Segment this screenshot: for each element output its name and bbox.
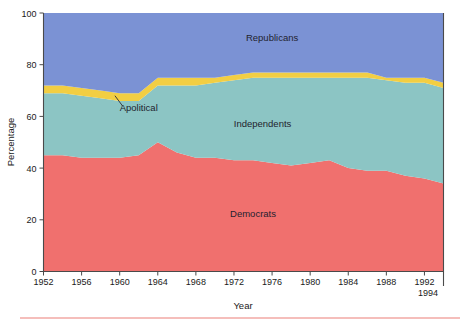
y-tick-label: 80	[26, 60, 36, 70]
series-label-independents: Independents	[234, 118, 292, 129]
figure-container: 020406080100 195219561960196419681972197…	[0, 0, 469, 323]
x-tick-label: 1984	[338, 277, 358, 287]
stacked-areas-group	[44, 13, 444, 272]
x-tick-label: 1956	[72, 277, 92, 287]
y-tick-label: 20	[26, 215, 36, 225]
x-tick-label: 1968	[186, 277, 206, 287]
area-chart: 020406080100 195219561960196419681972197…	[0, 0, 469, 323]
x-axis-title: Year	[233, 300, 252, 311]
series-label-republicans: Republicans	[246, 32, 299, 43]
x-axis-end-label: 1994	[418, 288, 438, 298]
x-tick-group: 1952195619601964196819721976198019841988…	[33, 272, 434, 288]
y-tick-group: 020406080100	[21, 9, 43, 278]
x-tick-label: 1988	[376, 277, 396, 287]
x-tick-label: 1992	[414, 277, 434, 287]
x-tick-label: 1964	[148, 277, 168, 287]
y-tick-label: 100	[21, 9, 36, 19]
x-tick-label: 1972	[224, 277, 244, 287]
x-tick-label: 1976	[262, 277, 282, 287]
x-tick-label: 1960	[110, 277, 130, 287]
y-tick-label: 60	[26, 112, 36, 122]
y-tick-label: 40	[26, 164, 36, 174]
series-label-democrats: Democrats	[230, 208, 276, 219]
x-tick-label: 1952	[33, 277, 53, 287]
series-label-apolitical: Apolitical	[120, 102, 158, 113]
x-tick-label: 1980	[300, 277, 320, 287]
y-axis-title: Percentage	[5, 118, 16, 167]
y-tick-label: 0	[31, 267, 36, 277]
